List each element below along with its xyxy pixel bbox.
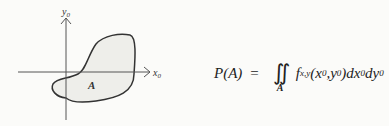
probability-formula: P(A) = ∬A fx,y (x0 ,y0 )dx0 dy0 — [214, 60, 384, 86]
double-integral-icon: ∬A — [273, 60, 290, 86]
arg-close-dx: )dx — [341, 65, 360, 82]
y-axis-label: y0 — [61, 6, 70, 19]
region-a — [52, 34, 135, 102]
formula-lhs: P(A) — [214, 65, 242, 82]
arg-open: (x — [310, 65, 322, 82]
x-axis-label: x0 — [152, 67, 161, 80]
density-sub: x,y — [300, 68, 310, 78]
dy-sub: 0 — [379, 68, 384, 78]
dy: dy — [365, 65, 379, 82]
region-label: A — [87, 79, 95, 91]
formula-equals: = — [250, 65, 258, 82]
arg-comma: ,y — [326, 65, 336, 82]
integral-region: A — [277, 82, 284, 93]
